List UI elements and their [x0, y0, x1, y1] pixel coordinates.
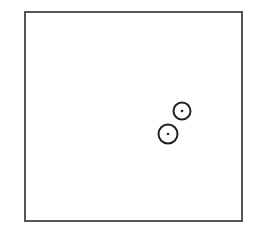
diagram-canvas — [0, 0, 268, 231]
marker-dot-icon — [167, 133, 170, 136]
markers-group — [159, 103, 191, 144]
circled-dot-marker — [174, 103, 191, 120]
marker-dot-icon — [181, 110, 184, 113]
circled-dot-marker — [159, 125, 178, 144]
diagram-frame — [25, 12, 242, 221]
